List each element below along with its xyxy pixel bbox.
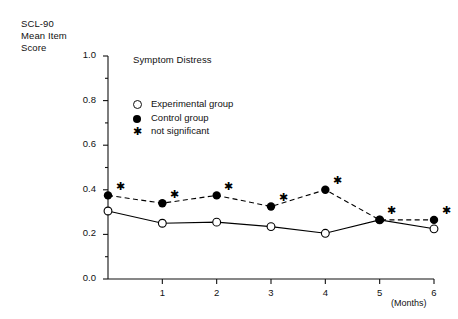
significance-star-icon: ✱ bbox=[170, 188, 179, 200]
data-point-experimental[interactable] bbox=[321, 229, 329, 237]
y-tick-label: 0.2 bbox=[68, 227, 96, 238]
y-tick-label: 0.4 bbox=[68, 183, 96, 194]
data-point-control[interactable] bbox=[375, 216, 383, 224]
x-tick-label: 4 bbox=[316, 287, 334, 298]
y-tick-label: 0.6 bbox=[68, 138, 96, 149]
y-tick-label: 0.0 bbox=[68, 272, 96, 283]
significance-star-icon: ✱ bbox=[279, 191, 288, 203]
significance-star-icon: ✱ bbox=[442, 204, 451, 216]
x-tick-label: 2 bbox=[208, 287, 226, 298]
x-tick-label: 5 bbox=[371, 287, 389, 298]
significance-star-icon: ✱ bbox=[387, 204, 396, 216]
data-point-experimental[interactable] bbox=[158, 219, 166, 227]
data-point-control[interactable] bbox=[267, 202, 275, 210]
data-point-control[interactable] bbox=[158, 199, 166, 207]
y-tick-label: 1.0 bbox=[68, 49, 96, 60]
significance-star-icon: ✱ bbox=[333, 174, 342, 186]
significance-star-icon: ✱ bbox=[224, 180, 233, 192]
data-point-experimental[interactable] bbox=[267, 223, 275, 231]
data-point-experimental[interactable] bbox=[104, 207, 112, 215]
data-point-control[interactable] bbox=[321, 186, 329, 194]
chart-figure: SCL-90Mean ItemScore Symptom Distress Ex… bbox=[0, 0, 458, 319]
significance-star-icon: ✱ bbox=[116, 180, 125, 192]
data-point-control[interactable] bbox=[104, 191, 112, 199]
data-point-experimental[interactable] bbox=[430, 225, 438, 233]
x-tick-label: 3 bbox=[262, 287, 280, 298]
data-point-experimental[interactable] bbox=[213, 218, 221, 226]
x-tick-label: 6 bbox=[425, 287, 443, 298]
data-point-control[interactable] bbox=[430, 216, 438, 224]
y-tick-label: 0.8 bbox=[68, 94, 96, 105]
x-tick-label: 1 bbox=[153, 287, 171, 298]
data-point-control[interactable] bbox=[212, 191, 220, 199]
